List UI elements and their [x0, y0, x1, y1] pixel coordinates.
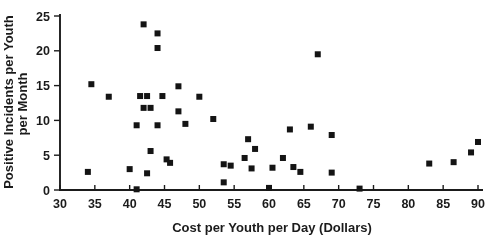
data-point — [85, 169, 91, 175]
data-point — [106, 94, 112, 100]
x-tick-label: 75 — [367, 197, 381, 211]
data-point — [137, 93, 143, 99]
data-point — [127, 166, 133, 172]
x-tick-label: 45 — [158, 197, 172, 211]
x-tick-label: 70 — [332, 197, 346, 211]
data-point — [155, 122, 161, 128]
x-tick-label: 90 — [471, 197, 485, 211]
data-point — [315, 51, 321, 57]
x-tick-label: 85 — [436, 197, 450, 211]
data-point — [182, 121, 188, 127]
data-point — [329, 132, 335, 138]
y-tick-label: 5 — [43, 149, 50, 163]
data-point — [159, 93, 165, 99]
x-tick-label: 30 — [53, 197, 67, 211]
data-point — [88, 81, 94, 87]
data-point — [357, 186, 363, 192]
data-point — [155, 45, 161, 51]
x-tick-label: 50 — [192, 197, 206, 211]
data-point — [228, 163, 234, 169]
data-point — [196, 94, 202, 100]
data-point — [468, 149, 474, 155]
x-tick-label: 40 — [123, 197, 137, 211]
data-point — [426, 161, 432, 167]
data-point — [280, 155, 286, 161]
data-point — [221, 179, 227, 185]
y-axis-title-line1: Positive Incidents per Youth — [1, 15, 16, 189]
y-tick-label: 10 — [36, 114, 50, 128]
ticks-layer: 303540455055606570758085900510152025 — [36, 10, 485, 212]
data-point — [451, 159, 457, 165]
x-tick-label: 80 — [401, 197, 415, 211]
data-points-layer — [85, 21, 481, 192]
x-tick-label: 35 — [88, 197, 102, 211]
scatter-plot-figure: 303540455055606570758085900510152025 Cos… — [0, 0, 485, 240]
x-tick-label: 55 — [227, 197, 241, 211]
data-point — [249, 165, 255, 171]
y-axis-title-line2: per Month — [15, 73, 30, 136]
data-point — [167, 160, 173, 166]
data-point — [175, 108, 181, 114]
data-point — [141, 105, 147, 111]
data-point — [210, 116, 216, 122]
data-point — [144, 170, 150, 176]
data-point — [155, 30, 161, 36]
data-point — [252, 146, 258, 152]
y-tick-label: 20 — [36, 44, 50, 58]
scatter-plot-canvas: 303540455055606570758085900510152025 Cos… — [0, 0, 485, 240]
data-point — [144, 93, 150, 99]
data-point — [141, 21, 147, 27]
data-point — [148, 148, 154, 154]
data-point — [245, 136, 251, 142]
data-point — [266, 185, 272, 191]
y-tick-label: 15 — [36, 79, 50, 93]
x-tick-label: 65 — [297, 197, 311, 211]
data-point — [221, 161, 227, 167]
data-point — [134, 186, 140, 192]
data-point — [475, 139, 481, 145]
data-point — [269, 165, 275, 171]
data-point — [242, 155, 248, 161]
x-tick-label: 60 — [262, 197, 276, 211]
y-tick-label: 0 — [43, 184, 50, 198]
data-point — [134, 122, 140, 128]
data-point — [287, 126, 293, 132]
data-point — [329, 170, 335, 176]
data-point — [308, 124, 314, 130]
data-point — [175, 83, 181, 89]
data-point — [148, 105, 154, 111]
data-point — [297, 169, 303, 175]
y-tick-label: 25 — [36, 10, 50, 24]
data-point — [290, 164, 296, 170]
x-axis-title: Cost per Youth per Day (Dollars) — [172, 220, 372, 235]
